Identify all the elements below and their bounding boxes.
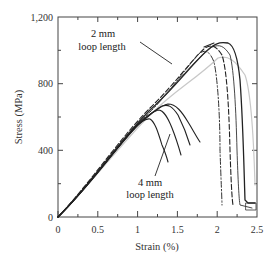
curve-4mm-a bbox=[58, 105, 190, 217]
y-tick-labels: 0 400 800 1,200 bbox=[31, 12, 54, 223]
annotation-2mm: 2 mm loop length bbox=[78, 28, 172, 64]
y-axis-title: Stress (MPa) bbox=[13, 89, 25, 144]
x-tick-0: 0 bbox=[56, 224, 61, 235]
x-tick-labels: 0 0.5 1 1.5 2 2.5 bbox=[56, 224, 264, 235]
stress-strain-chart: 0 0.5 1 1.5 2 2.5 0 400 800 1,200 Strain… bbox=[0, 0, 276, 264]
x-tick-1-5: 1.5 bbox=[171, 224, 184, 235]
series-4mm bbox=[58, 104, 200, 217]
annotation-2mm-line2: loop length bbox=[78, 41, 126, 52]
y-tick-1200: 1,200 bbox=[31, 12, 54, 23]
x-tick-0-5: 0.5 bbox=[92, 224, 105, 235]
curve-4mm-d bbox=[58, 104, 200, 217]
annotation-4mm-leader bbox=[155, 134, 170, 176]
y-tick-800: 800 bbox=[38, 78, 53, 89]
x-tick-2-5: 2.5 bbox=[251, 224, 264, 235]
curve-4mm-b bbox=[58, 110, 181, 217]
annotation-4mm-line1: 4 mm bbox=[138, 177, 162, 188]
y-axis-ticks bbox=[58, 50, 257, 183]
annotation-2mm-line1: 2 mm bbox=[91, 28, 115, 39]
annotation-2mm-leader bbox=[140, 42, 172, 64]
y-tick-0: 0 bbox=[48, 212, 53, 223]
annotation-4mm: 4 mm loop length bbox=[126, 134, 174, 200]
y-tick-400: 400 bbox=[38, 145, 53, 156]
curve-4mm-c bbox=[58, 119, 168, 217]
x-tick-2: 2 bbox=[215, 224, 220, 235]
x-axis-title: Strain (%) bbox=[135, 241, 179, 253]
x-tick-1: 1 bbox=[135, 224, 140, 235]
annotation-4mm-line2: loop length bbox=[126, 189, 174, 200]
